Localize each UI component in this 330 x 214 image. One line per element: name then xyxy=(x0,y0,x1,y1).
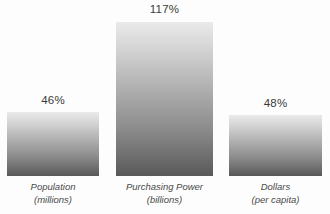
bar-caption-name: Population xyxy=(31,181,76,192)
bar-value-label: 48% xyxy=(229,97,322,109)
bar-caption: Population (millions) xyxy=(7,180,99,206)
bar-value-label: 117% xyxy=(116,3,213,15)
bar-caption: Dollars (per capita) xyxy=(229,180,322,206)
bar-rect xyxy=(7,112,99,176)
bar-caption-name: Purchasing Power xyxy=(126,181,203,192)
bar-rect xyxy=(116,22,213,176)
bar-caption-unit: (per capita) xyxy=(229,193,322,206)
bar-caption-name: Dollars xyxy=(261,181,291,192)
bar-caption-unit: (millions) xyxy=(7,193,99,206)
bar-value-label: 46% xyxy=(7,94,99,106)
bar-caption: Purchasing Power (billions) xyxy=(116,180,213,206)
bar-chart: 46% Population (millions) 117% Purchasin… xyxy=(0,0,330,214)
bar-caption-unit: (billions) xyxy=(116,193,213,206)
bar-rect xyxy=(229,115,322,176)
bar-group-dollars: 48% Dollars (per capita) xyxy=(229,0,322,214)
bar-group-population: 46% Population (millions) xyxy=(7,0,99,214)
bar-group-purchasing-power: 117% Purchasing Power (billions) xyxy=(116,0,213,214)
